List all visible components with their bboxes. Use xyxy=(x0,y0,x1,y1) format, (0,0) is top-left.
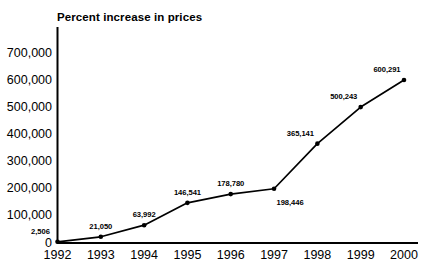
data-point-marker xyxy=(402,78,407,83)
data-series-line xyxy=(58,80,405,242)
y-axis-tick-label: 500,000 xyxy=(7,100,52,114)
x-axis-tick-label: 1998 xyxy=(303,248,331,262)
data-point-marker xyxy=(142,223,147,228)
axis-lines xyxy=(57,27,418,244)
data-point-value-label: 600,291 xyxy=(373,64,400,73)
data-point-value-label: 178,780 xyxy=(217,179,244,188)
data-point-value-label: 63,992 xyxy=(133,210,156,219)
chart-page: Percent increase in prices 0100,000200,0… xyxy=(0,0,425,270)
data-point-value-label: 500,243 xyxy=(330,92,357,101)
data-markers-group xyxy=(55,78,406,244)
y-axis-tick-label: 600,000 xyxy=(7,73,52,87)
data-point-value-label: 198,446 xyxy=(276,197,303,206)
x-axis-tick-label: 1996 xyxy=(217,248,245,262)
data-point-marker xyxy=(272,186,277,191)
y-axis-tick-label: 400,000 xyxy=(7,127,52,141)
data-point-marker xyxy=(358,105,363,110)
data-point-value-label: 365,141 xyxy=(287,128,314,137)
data-point-value-label: 21,050 xyxy=(89,221,112,230)
line-chart-plot xyxy=(0,0,425,270)
x-axis-tick-label: 1999 xyxy=(347,248,375,262)
x-axis-tick-label: 1997 xyxy=(260,248,288,262)
data-point-value-label: 2,506 xyxy=(31,226,50,235)
y-axis-tick-label: 300,000 xyxy=(7,154,52,168)
y-axis-tick-label: 100,000 xyxy=(7,208,52,222)
y-axis-tick-label: 200,000 xyxy=(7,181,52,195)
data-point-marker xyxy=(55,240,60,245)
data-point-marker xyxy=(185,201,190,206)
data-point-marker xyxy=(99,235,104,240)
data-point-marker xyxy=(228,192,233,197)
data-point-marker xyxy=(315,141,320,146)
x-axis-tick-label: 1992 xyxy=(44,248,72,262)
x-axis-tick-label: 2000 xyxy=(390,248,418,262)
y-axis-tick-label: 700,000 xyxy=(7,46,52,60)
x-axis-tick-label: 1993 xyxy=(87,248,115,262)
data-point-value-label: 146,541 xyxy=(174,187,201,196)
x-axis-tick-label: 1995 xyxy=(174,248,202,262)
x-axis-tick-label: 1994 xyxy=(130,248,158,262)
